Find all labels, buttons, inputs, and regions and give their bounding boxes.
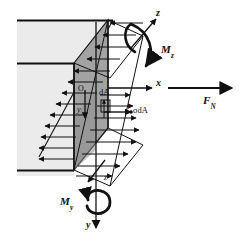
moment-y-symbol: M xyxy=(60,195,70,207)
moment-y-arrow-group xyxy=(87,190,110,213)
moment-y-subscript: y xyxy=(70,204,73,212)
axis-label-y-inner: y xyxy=(77,106,81,114)
normal-force-label: FN xyxy=(203,95,216,109)
axis-label-x: x xyxy=(156,78,161,88)
moment-z-subscript: z xyxy=(171,52,174,60)
sigma-dA-label: σdA xyxy=(133,106,148,115)
axis-label-z-top: z xyxy=(156,8,160,18)
axis-label-y-bottom: y xyxy=(86,220,90,230)
origin-label: O xyxy=(78,85,84,93)
beam-side-face xyxy=(17,63,74,170)
beam-stress-diagram xyxy=(0,0,241,244)
axis-label-z-lower: z xyxy=(104,174,107,182)
normal-force-subscript: N xyxy=(210,103,215,111)
moment-z-label: Mz xyxy=(161,44,174,58)
figure-root: z x y z y O dA σdA FN Mz My xyxy=(0,0,241,244)
area-element-label: dA xyxy=(99,88,109,97)
moment-z-symbol: M xyxy=(161,43,171,55)
moment-y-label: My xyxy=(60,196,73,210)
moment-y-curved-arrow xyxy=(87,190,110,213)
